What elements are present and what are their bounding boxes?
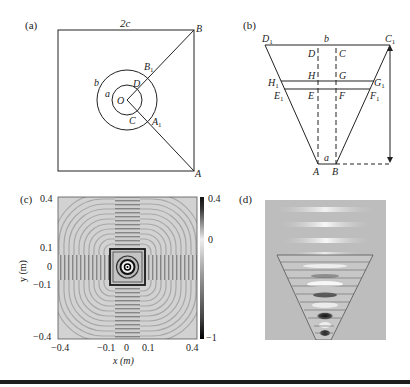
colorbar-tick-zero: 0 (208, 234, 213, 245)
panel-c-tag: (c) (20, 193, 33, 206)
xtick-neg0.1: −0.1 (97, 342, 115, 353)
panel-a-tag: (a) (25, 19, 38, 32)
arrowhead-down-icon (387, 157, 393, 163)
point-F1: F1 (369, 90, 380, 103)
diagonal-OB (127, 30, 194, 100)
point-H1: H1 (267, 77, 279, 90)
radius-b-label: b (94, 77, 99, 88)
point-A: A (194, 168, 202, 179)
panel-a: (a) 2c B A B1 A1 D C O b a (25, 17, 202, 179)
top-length-b: b (324, 33, 329, 44)
field-heatmap (54, 194, 201, 341)
ytick-neg0.4: −0.4 (33, 331, 51, 342)
colorbar (200, 197, 204, 339)
ytick-neg0.1: −0.1 (33, 279, 51, 290)
point-C1: C1 (385, 33, 396, 46)
x-axis-label: x (m) (112, 355, 134, 367)
radius-a-label: a (105, 88, 110, 99)
panel-b-tag: (b) (243, 19, 256, 32)
bottom-rule (0, 380, 410, 384)
xtick-0.4: 0.4 (186, 342, 199, 353)
right-edge-C1B (336, 45, 390, 164)
bottom-length-a: a (324, 152, 329, 163)
point-F: F (338, 90, 346, 101)
xtick-neg0.4: −0.4 (51, 342, 69, 353)
point-C: C (339, 48, 346, 59)
point-D: D (307, 48, 316, 59)
ytick-0.4: 0.4 (40, 193, 53, 204)
ytick-0: 0 (47, 261, 52, 272)
y-axis-label: y (m) (17, 260, 29, 282)
point-B1: B1 (144, 61, 154, 74)
xtick-0: 0 (124, 342, 129, 353)
point-B: B (196, 23, 202, 34)
side-length-label: 2c (120, 17, 131, 29)
point-E1: E1 (273, 90, 284, 103)
colorbar-tick-min: −1 (206, 332, 217, 343)
trapezoid-field-heatmap (265, 200, 386, 340)
colorbar-tick-max: 0.4 (208, 193, 221, 204)
panel-c: (c) (17, 193, 221, 367)
point-G1: G1 (374, 77, 385, 90)
point-B: B (332, 166, 338, 177)
figure-canvas: (a) 2c B A B1 A1 D C O b a (b) (0, 0, 410, 387)
panel-d-tag: (d) (239, 193, 252, 206)
point-C: C (129, 115, 136, 126)
point-H: H (307, 70, 316, 81)
point-D1: D1 (261, 33, 273, 46)
point-A: A (312, 166, 320, 177)
panel-b: (b) D1 C1 b D C H G H1 G1 E F E1 F1 a A … (243, 19, 396, 177)
diagonal-OA (127, 100, 194, 171)
xtick-0.1: 0.1 (142, 342, 155, 353)
left-edge-D1A (265, 45, 318, 164)
point-E: E (307, 90, 314, 101)
panel-d: (d) (239, 193, 386, 340)
point-G: G (339, 70, 346, 81)
point-D: D (132, 78, 141, 89)
point-O: O (117, 95, 124, 106)
ytick-0.1: 0.1 (40, 242, 53, 253)
